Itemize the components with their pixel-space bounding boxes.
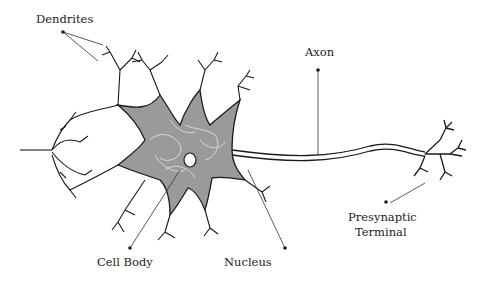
neuron-diagram: Dendrites Axon Cell Body Nucleus Presyna… xyxy=(0,0,488,281)
axon-label: Axon xyxy=(305,45,334,59)
cell-body-label: Cell Body xyxy=(97,255,153,269)
axon-shape xyxy=(232,144,425,160)
nucleus-label: Nucleus xyxy=(224,255,272,269)
presynaptic-terminal-shape xyxy=(414,120,466,180)
presynaptic-label-line2: Terminal xyxy=(355,225,407,239)
neuron-illustration xyxy=(0,0,488,281)
presynaptic-label-line1: Presynaptic xyxy=(348,210,417,224)
nucleus-shape xyxy=(184,153,196,167)
dendrites-label: Dendrites xyxy=(36,12,93,26)
cell-body-shape xyxy=(118,90,245,215)
